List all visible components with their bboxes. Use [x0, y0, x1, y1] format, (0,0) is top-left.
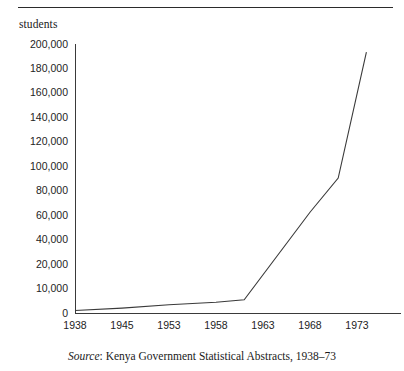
- series-line-students: [75, 52, 366, 310]
- source-text: : Kenya Government Statistical Abstracts…: [100, 350, 336, 362]
- source-caption: Source: Kenya Government Statistical Abs…: [0, 350, 404, 362]
- chart-plot-area: 010,00020,00040,00060,00080,000100,00012…: [0, 0, 404, 371]
- figure-container: students 010,00020,00040,00060,00080,000…: [0, 0, 404, 371]
- source-label: Source: [68, 350, 100, 362]
- series-layer: [0, 0, 404, 371]
